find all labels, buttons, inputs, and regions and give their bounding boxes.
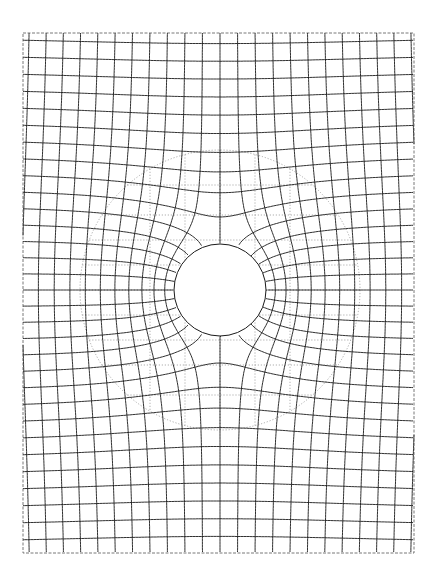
mesh-line-vertical xyxy=(70,33,81,552)
mesh-line-horizontal xyxy=(23,91,413,97)
mesh-line-vertical xyxy=(38,33,46,552)
mesh-line-vertical xyxy=(307,33,325,552)
mesh-line-horizontal xyxy=(23,142,413,152)
mesh-line-horizontal xyxy=(23,74,413,79)
mesh-line-horizontal xyxy=(23,258,176,273)
mesh-line-horizontal xyxy=(23,387,413,404)
mesh-line-vertical xyxy=(220,336,221,552)
mesh-line-horizontal xyxy=(23,274,175,282)
mesh-line-horizontal xyxy=(23,40,413,43)
mesh-line-vertical xyxy=(359,33,370,552)
mesh-line-horizontal xyxy=(239,335,413,371)
mesh-line-horizontal xyxy=(23,176,413,193)
mesh-line-horizontal xyxy=(23,209,202,246)
mesh-line-horizontal xyxy=(251,324,413,355)
mesh-line-horizontal xyxy=(23,325,188,355)
flow-mesh-diagram xyxy=(0,0,442,586)
mesh-line-vertical xyxy=(54,33,63,552)
mesh-line-vertical xyxy=(411,435,414,552)
mesh-line-vertical xyxy=(290,33,311,552)
mesh-line-horizontal xyxy=(23,465,413,472)
mesh-line-horizontal xyxy=(23,299,175,307)
mesh-line-vertical xyxy=(377,33,386,552)
mesh-line-horizontal xyxy=(23,57,413,61)
mesh-line-horizontal xyxy=(23,192,413,217)
mesh-line-horizontal xyxy=(23,125,413,133)
mesh-line-horizontal xyxy=(251,225,413,256)
mesh-line-vertical xyxy=(129,33,150,552)
mesh-line-horizontal xyxy=(23,363,413,388)
mesh-line-horizontal xyxy=(23,501,413,506)
mesh-line-horizontal xyxy=(23,159,413,172)
mesh-line-horizontal xyxy=(23,308,176,323)
mesh-line-vertical xyxy=(23,345,29,552)
mesh-line-vertical xyxy=(142,33,168,552)
mesh-line-horizontal xyxy=(23,519,413,523)
mesh-line-horizontal xyxy=(23,447,413,455)
mesh-line-vertical xyxy=(411,33,414,144)
mesh-line-horizontal xyxy=(23,334,202,371)
circular-obstacle xyxy=(174,244,266,336)
mesh-line-horizontal xyxy=(23,536,413,539)
mesh-line-horizontal xyxy=(23,108,413,115)
mesh-line-horizontal xyxy=(23,428,413,438)
mesh-line-vertical xyxy=(100,33,115,552)
mesh-line-horizontal xyxy=(23,408,413,421)
mesh-line-vertical xyxy=(115,33,133,552)
mesh-line-horizontal xyxy=(23,483,413,489)
mesh-line-vertical xyxy=(273,33,299,552)
mesh-line-horizontal xyxy=(239,209,413,245)
mesh-line-vertical xyxy=(23,33,29,236)
mesh-line-vertical xyxy=(394,33,402,552)
mesh-line-horizontal xyxy=(23,225,188,255)
